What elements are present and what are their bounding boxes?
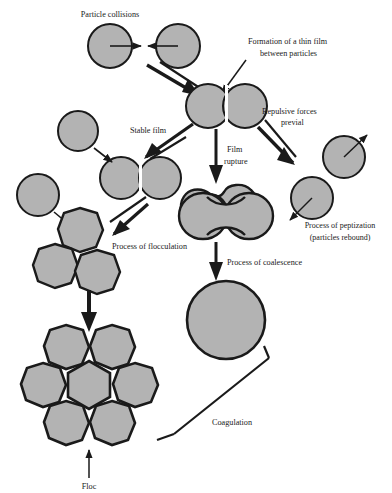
floc-outer-particle-bottom-right (90, 401, 135, 445)
label-coagulation: Coagulation (212, 418, 252, 427)
label-stable-film: Stable film (130, 126, 167, 135)
stable-film-pair-left (100, 157, 142, 199)
label-thin-film-line2: between particles (260, 49, 317, 58)
thin-film-pair-right (223, 84, 267, 128)
label-particle-collisions: Particle collisions (81, 10, 139, 19)
stable-film-pair-right (139, 157, 181, 199)
label-peptization-line2: (particles rebound) (310, 233, 371, 242)
floc-outer-particle-top-left (44, 325, 89, 369)
coagulation-line-end (157, 434, 174, 440)
label-floc: Floc (82, 482, 97, 491)
arrow-coalescence-head (209, 262, 223, 281)
floccule-particle-b (33, 244, 78, 288)
label-peptization-line1: Process of peptization (305, 221, 376, 230)
label-film-rupture-line1: Film (227, 145, 243, 154)
label-thin-film-line1: Formation of a thin film (248, 37, 328, 46)
label-coalescence: Process of coalescence (227, 258, 302, 267)
floc-outer-particle-top-right (90, 325, 135, 369)
coagulation-cap (264, 346, 269, 358)
figure-canvas: Particle collisions Formation of a thin … (0, 0, 392, 493)
label-flocculation: Process of flocculation (112, 242, 187, 251)
floc-core-hexagon (68, 361, 110, 409)
floccule-particle-a (58, 208, 103, 252)
coalesced-droplet (187, 281, 265, 359)
floc-outer-particle-bottom-left (44, 401, 89, 445)
arrow-film-rupture-head (209, 165, 223, 184)
floc-outer-particle-mid-left (21, 363, 66, 407)
label-repulsive-line2: previal (281, 118, 304, 127)
arrow-particle-joins-pair (94, 148, 112, 162)
label-film-rupture-line2: rupture (224, 157, 248, 166)
floccule-particle-c (75, 250, 120, 294)
label-repulsive-line1: Repulsive forces (262, 107, 317, 116)
process-diagram: Particle collisions Formation of a thin … (0, 0, 392, 493)
floc-outer-particle-mid-right (113, 363, 158, 407)
free-particle-mid-left (17, 174, 59, 216)
free-particle-upper-left (58, 111, 98, 151)
